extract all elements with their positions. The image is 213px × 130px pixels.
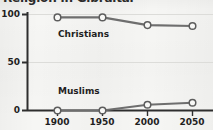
data-point-muslims-2050 xyxy=(189,100,196,107)
data-point-christians-2050 xyxy=(189,23,196,30)
y-tick-label-50: 50 xyxy=(0,57,20,67)
series-label-muslims: Muslims xyxy=(58,86,100,96)
data-point-christians-1900 xyxy=(54,14,61,21)
x-tick-label-2000: 2000 xyxy=(129,117,165,127)
series-line-christians xyxy=(58,17,193,26)
data-point-muslims-1900 xyxy=(54,107,61,114)
x-tick-label-2050: 2050 xyxy=(174,117,210,127)
y-tick-label-100: 100 xyxy=(0,9,20,19)
data-point-christians-1950 xyxy=(99,14,106,21)
data-point-muslims-1950 xyxy=(99,107,106,114)
data-point-muslims-2000 xyxy=(144,101,151,108)
series-line-muslims xyxy=(58,103,193,111)
line-chart xyxy=(0,0,213,130)
series-label-christians: Christians xyxy=(58,29,109,39)
y-tick-label-0: 0 xyxy=(0,105,20,115)
x-tick-label-1950: 1950 xyxy=(84,117,120,127)
x-tick-label-1900: 1900 xyxy=(39,117,75,127)
data-point-christians-2000 xyxy=(144,22,151,29)
